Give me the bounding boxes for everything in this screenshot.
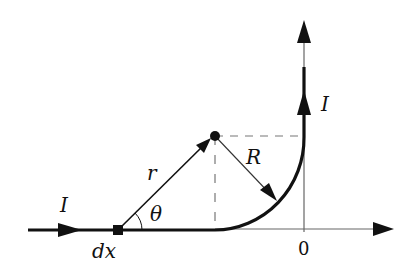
field-point [210, 131, 220, 141]
label-R: R [245, 145, 261, 169]
current-arrow-left-icon [58, 223, 82, 237]
label-dx: dx [92, 239, 116, 263]
theta-arc [135, 213, 142, 230]
label-theta: θ [150, 202, 162, 226]
diagram-canvas: I I dx r θ R 0 [0, 0, 414, 274]
current-wire [28, 67, 311, 237]
r-vector [118, 138, 211, 230]
label-origin: 0 [298, 238, 309, 259]
x-axis-arrow-icon [373, 222, 394, 236]
current-arrow-up-icon [297, 90, 311, 115]
label-current-right: I [320, 92, 330, 116]
label-current-left: I [59, 193, 69, 217]
label-r: r [147, 161, 158, 185]
y-axis-arrow-icon [297, 20, 311, 43]
